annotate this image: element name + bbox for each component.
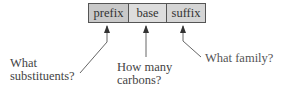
- substituents-question: What substituents?: [10, 57, 75, 83]
- carbons-question: How many carbons?: [117, 61, 172, 86]
- question-line: substituents?: [10, 70, 75, 83]
- question-line: What family?: [205, 52, 273, 65]
- family-question: What family?: [205, 52, 273, 65]
- question-line: carbons?: [117, 74, 172, 86]
- suffix-arrow-icon: [180, 25, 201, 57]
- base-arrow-icon: [143, 25, 149, 57]
- prefix-arrow-icon: [80, 25, 110, 73]
